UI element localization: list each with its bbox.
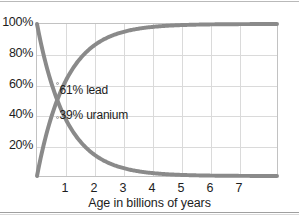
- y-axis-tick-label: 20%: [0, 138, 33, 152]
- plot-area: 61% lead 39% uranium: [36, 23, 278, 177]
- y-axis-tick-label: 60%: [0, 77, 33, 91]
- x-axis-tick-label: 5: [173, 181, 189, 195]
- x-axis-tick-label: 2: [86, 181, 102, 195]
- lead-annotation: 61% lead: [60, 83, 108, 97]
- page-rule-bottom: [0, 212, 299, 213]
- x-axis-tick-label: 6: [202, 181, 218, 195]
- y-axis-tick-label: 100%: [0, 15, 33, 29]
- uranium-marker: [56, 116, 59, 119]
- chart-screenshot: 61% lead 39% uranium 100%80%60%40%20% 12…: [0, 0, 299, 219]
- y-axis-tick-label: 40%: [0, 107, 33, 121]
- x-axis-tick-label: 4: [144, 181, 160, 195]
- x-axis-tick-label: 3: [115, 181, 131, 195]
- lead-marker: [56, 82, 59, 85]
- uranium-curve: [37, 24, 277, 176]
- x-axis-tick-label: 1: [57, 181, 73, 195]
- x-axis-title: Age in billions of years: [0, 196, 299, 210]
- curve-layer: [37, 24, 277, 176]
- page-rule-bottom-soft: [0, 214, 299, 215]
- lead-curve: [37, 24, 277, 176]
- uranium-annotation: 39% uranium: [60, 108, 129, 122]
- x-axis-tick-label: 7: [231, 181, 247, 195]
- page-rule-top: [0, 1, 299, 2]
- y-axis-tick-label: 80%: [0, 46, 33, 60]
